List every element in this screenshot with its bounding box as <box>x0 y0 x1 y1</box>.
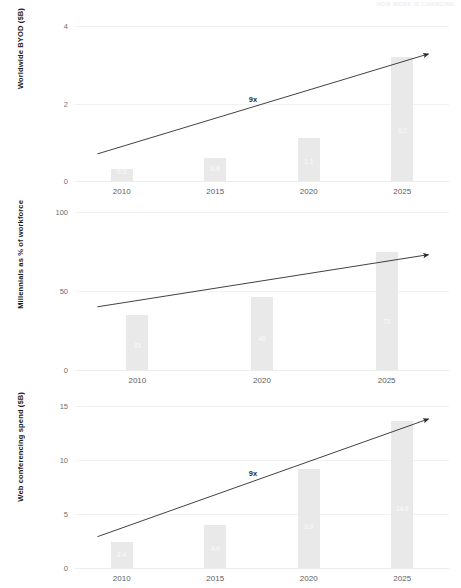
y-axis-tick-label: 4 <box>64 22 68 31</box>
y-axis-tick-label: 10 <box>60 456 68 465</box>
y-axis-tick-label: 50 <box>60 287 68 296</box>
y-axis-tick-label: 0 <box>64 177 68 186</box>
x-axis-tick-label: 2020 <box>300 574 318 583</box>
chart-panel-byod: Worldwide BYOD ($B) 0240.30.61.13.220102… <box>0 8 461 200</box>
x-axis-tick-label: 2015 <box>206 574 224 583</box>
gridline <box>75 568 449 569</box>
trend-arrow <box>75 212 449 370</box>
y-axis-tick-label: 100 <box>55 208 68 217</box>
y-axis-title: Worldwide BYOD ($B) <box>16 8 30 89</box>
x-axis-tick-label: 2020 <box>253 376 271 385</box>
y-axis-tick-label: 2 <box>64 99 68 108</box>
trend-arrow <box>75 406 449 568</box>
y-axis-title: Millennials as % of workforce <box>16 200 30 309</box>
y-axis-tick-label: 0 <box>64 366 68 375</box>
y-axis-tick-label: 15 <box>60 402 68 411</box>
y-axis-title: Web conferencing spend ($B) <box>16 392 30 502</box>
chart-page: HOW WORK IS CHANGING Worldwide BYOD ($B)… <box>0 0 461 588</box>
x-axis-tick-label: 2010 <box>128 376 146 385</box>
x-axis-tick-label: 2020 <box>300 187 318 196</box>
plot-area: 0510152.44.09.014.020102015202020259x <box>75 406 449 568</box>
y-axis-tick-label: 0 <box>64 564 68 573</box>
x-axis-tick-label: 2025 <box>393 574 411 583</box>
x-axis-tick-label: 2025 <box>393 187 411 196</box>
chart-panel-webconf: Web conferencing spend ($B) 0510152.44.0… <box>0 392 461 588</box>
x-axis-tick-label: 2025 <box>378 376 396 385</box>
gridline <box>75 181 449 182</box>
chart-panel-millennials: Millennials as % of workforce 0501003546… <box>0 200 461 392</box>
plot-area: 0240.30.61.13.220102015202020259x <box>75 26 449 181</box>
x-axis-tick-label: 2010 <box>113 574 131 583</box>
header-note: HOW WORK IS CHANGING <box>376 1 455 7</box>
growth-annotation: 9x <box>249 469 257 478</box>
gridline <box>75 370 449 371</box>
x-axis-tick-label: 2010 <box>113 187 131 196</box>
x-axis-tick-label: 2015 <box>206 187 224 196</box>
y-axis-tick-label: 5 <box>64 510 68 519</box>
growth-annotation: 9x <box>249 94 257 103</box>
plot-area: 050100354675201020202025 <box>75 212 449 370</box>
trend-arrow <box>75 26 449 181</box>
